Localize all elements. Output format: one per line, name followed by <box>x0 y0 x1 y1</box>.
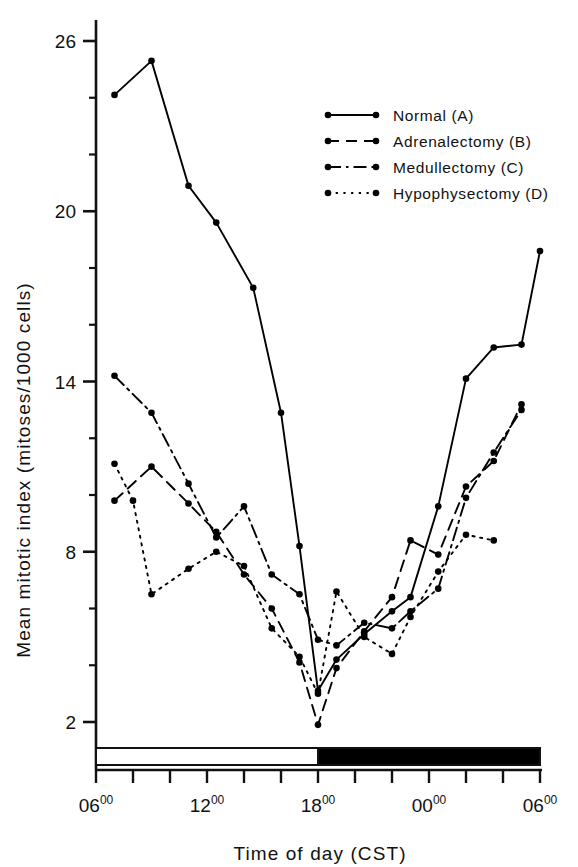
legend-marker-end-3 <box>373 190 380 197</box>
data-point-D-9 <box>333 588 340 595</box>
data-point-A-10 <box>389 608 396 615</box>
x-tick-label-06: 0600 <box>79 793 114 816</box>
y-axis-tick-labels: 28142026 <box>55 31 77 733</box>
legend-item-2: Medullectomy (C) <box>325 159 524 176</box>
data-point-C-8 <box>333 642 340 649</box>
series-line-C <box>115 376 522 646</box>
data-point-B-10 <box>389 594 396 601</box>
data-point-D-12 <box>407 614 414 621</box>
x-axis: 06001200180000000600 <box>79 770 558 816</box>
series-A <box>111 58 543 695</box>
data-point-A-4 <box>250 285 257 292</box>
x-tick-label-18: 1800 <box>301 793 336 816</box>
data-point-D-10 <box>361 634 368 641</box>
data-point-A-1 <box>148 58 155 65</box>
data-point-C-4 <box>241 503 248 510</box>
legend-item-1: Adrenalectomy (B) <box>325 133 532 150</box>
legend-label-3: Hypophysectomy (D) <box>393 185 549 202</box>
data-point-C-5 <box>268 571 275 578</box>
data-point-C-2 <box>185 480 192 487</box>
data-point-C-10 <box>389 625 396 632</box>
photoperiod-bar <box>96 748 540 765</box>
legend-marker-end-1 <box>373 138 380 145</box>
y-tick-label-26: 26 <box>55 31 76 52</box>
data-point-C-0 <box>111 373 118 380</box>
data-point-C-3 <box>213 534 220 541</box>
y-tick-label-8: 8 <box>65 542 76 563</box>
legend-marker-start-3 <box>325 190 332 197</box>
figure-mitotic-index: 28142026 06001200180000000600 Mean mitot… <box>0 0 578 867</box>
data-point-A-13 <box>463 375 470 382</box>
y-axis-title: Mean mitotic index (mitoses/1000 cells) <box>13 282 34 658</box>
x-axis-tick-labels: 06001200180000000600 <box>79 793 558 816</box>
data-point-D-15 <box>490 537 497 544</box>
y-tick-label-20: 20 <box>55 201 76 222</box>
data-point-B-4 <box>241 571 248 578</box>
data-point-C-11 <box>407 608 414 615</box>
y-axis: 28142026 <box>55 20 96 770</box>
y-axis-major-ticks <box>83 41 96 722</box>
legend-item-3: Hypophysectomy (D) <box>325 185 549 202</box>
data-point-D-7 <box>296 653 303 660</box>
legend-marker-end-0 <box>373 112 380 119</box>
data-point-B-8 <box>333 665 340 672</box>
data-point-B-1 <box>148 463 155 470</box>
data-point-A-11 <box>407 594 414 601</box>
data-point-A-14 <box>490 344 497 351</box>
data-point-D-13 <box>435 568 442 575</box>
data-point-A-0 <box>111 92 118 99</box>
chart-canvas: 28142026 06001200180000000600 Mean mitot… <box>0 0 578 867</box>
data-point-C-1 <box>148 409 155 416</box>
data-point-B-5 <box>268 605 275 612</box>
chart-legend: Normal (A)Adrenalectomy (B)Medullectomy … <box>325 107 549 202</box>
data-point-B-0 <box>111 497 118 504</box>
data-point-D-11 <box>389 651 396 658</box>
series-C <box>111 373 525 649</box>
legend-label-2: Medullectomy (C) <box>393 159 524 176</box>
legend-item-0: Normal (A) <box>325 107 474 124</box>
data-point-B-6 <box>296 659 303 666</box>
data-point-D-4 <box>213 548 220 555</box>
x-tick-label-12: 1200 <box>190 793 225 816</box>
legend-label-1: Adrenalectomy (B) <box>393 133 532 150</box>
data-point-C-7 <box>315 636 322 643</box>
x-tick-label-00: 0000 <box>412 793 447 816</box>
data-point-B-15 <box>518 401 525 408</box>
data-point-C-13 <box>463 495 470 502</box>
data-point-B-12 <box>435 551 442 558</box>
data-point-C-15 <box>518 407 525 414</box>
legend-marker-start-2 <box>325 164 332 171</box>
data-point-A-12 <box>435 503 442 510</box>
y-tick-label-14: 14 <box>55 372 77 393</box>
data-point-C-14 <box>490 449 497 456</box>
data-point-A-16 <box>537 248 544 255</box>
photoperiod-light-segment <box>96 748 318 765</box>
data-point-A-2 <box>185 182 192 189</box>
data-point-B-11 <box>407 537 414 544</box>
data-point-A-6 <box>296 543 303 550</box>
data-point-D-14 <box>463 531 470 538</box>
legend-label-0: Normal (A) <box>393 107 474 124</box>
legend-marker-start-0 <box>325 112 332 119</box>
x-axis-ticks <box>96 770 540 783</box>
data-point-B-2 <box>185 500 192 507</box>
x-axis-title: Time of day (CST) <box>233 843 406 864</box>
data-point-C-9 <box>361 619 368 626</box>
data-point-D-0 <box>111 460 118 467</box>
data-point-D-8 <box>315 690 322 697</box>
data-point-D-6 <box>268 625 275 632</box>
series-line-A <box>115 61 541 691</box>
data-point-C-12 <box>435 585 442 592</box>
y-tick-label-2: 2 <box>65 712 76 733</box>
series-B <box>111 401 525 728</box>
data-point-A-15 <box>518 341 525 348</box>
data-point-B-14 <box>490 458 497 465</box>
legend-marker-end-2 <box>373 164 380 171</box>
series-line-B <box>115 404 522 725</box>
data-point-D-5 <box>241 563 248 570</box>
data-point-A-5 <box>278 409 285 416</box>
photoperiod-dark-segment <box>318 748 540 765</box>
data-point-D-2 <box>148 591 155 598</box>
data-point-B-7 <box>315 722 322 729</box>
data-point-A-3 <box>213 219 220 226</box>
